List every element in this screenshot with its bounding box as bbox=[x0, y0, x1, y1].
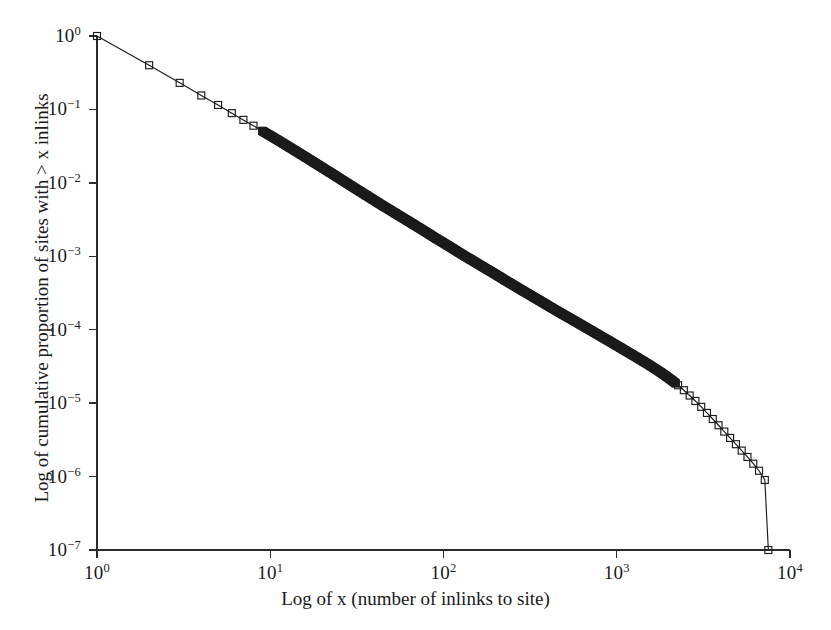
x-axis-tick-label: 104 bbox=[777, 562, 803, 584]
x-axis-ticks bbox=[97, 550, 790, 558]
bottom-caption-fragment bbox=[8, 620, 823, 630]
figure-canvas: 10010−110−210−310−410−510−610−7 10010110… bbox=[0, 0, 831, 630]
x-axis-title: Log of x (number of inlinks to site) bbox=[0, 588, 831, 610]
y-axis-ticks bbox=[89, 36, 97, 550]
x-axis-tick-label: 101 bbox=[257, 562, 283, 584]
axis-group bbox=[97, 36, 790, 550]
x-axis-tick-label: 102 bbox=[431, 562, 457, 584]
series-markers-inlinks bbox=[94, 33, 772, 554]
chart-plot-area bbox=[0, 0, 831, 630]
y-axis-title: Log of cumulative proportion of sites wi… bbox=[31, 0, 53, 598]
x-axis-tick-label: 100 bbox=[84, 562, 110, 584]
x-axis-tick-label: 103 bbox=[604, 562, 630, 584]
series-line-inlinks bbox=[97, 36, 768, 550]
data-series-group bbox=[94, 33, 772, 554]
